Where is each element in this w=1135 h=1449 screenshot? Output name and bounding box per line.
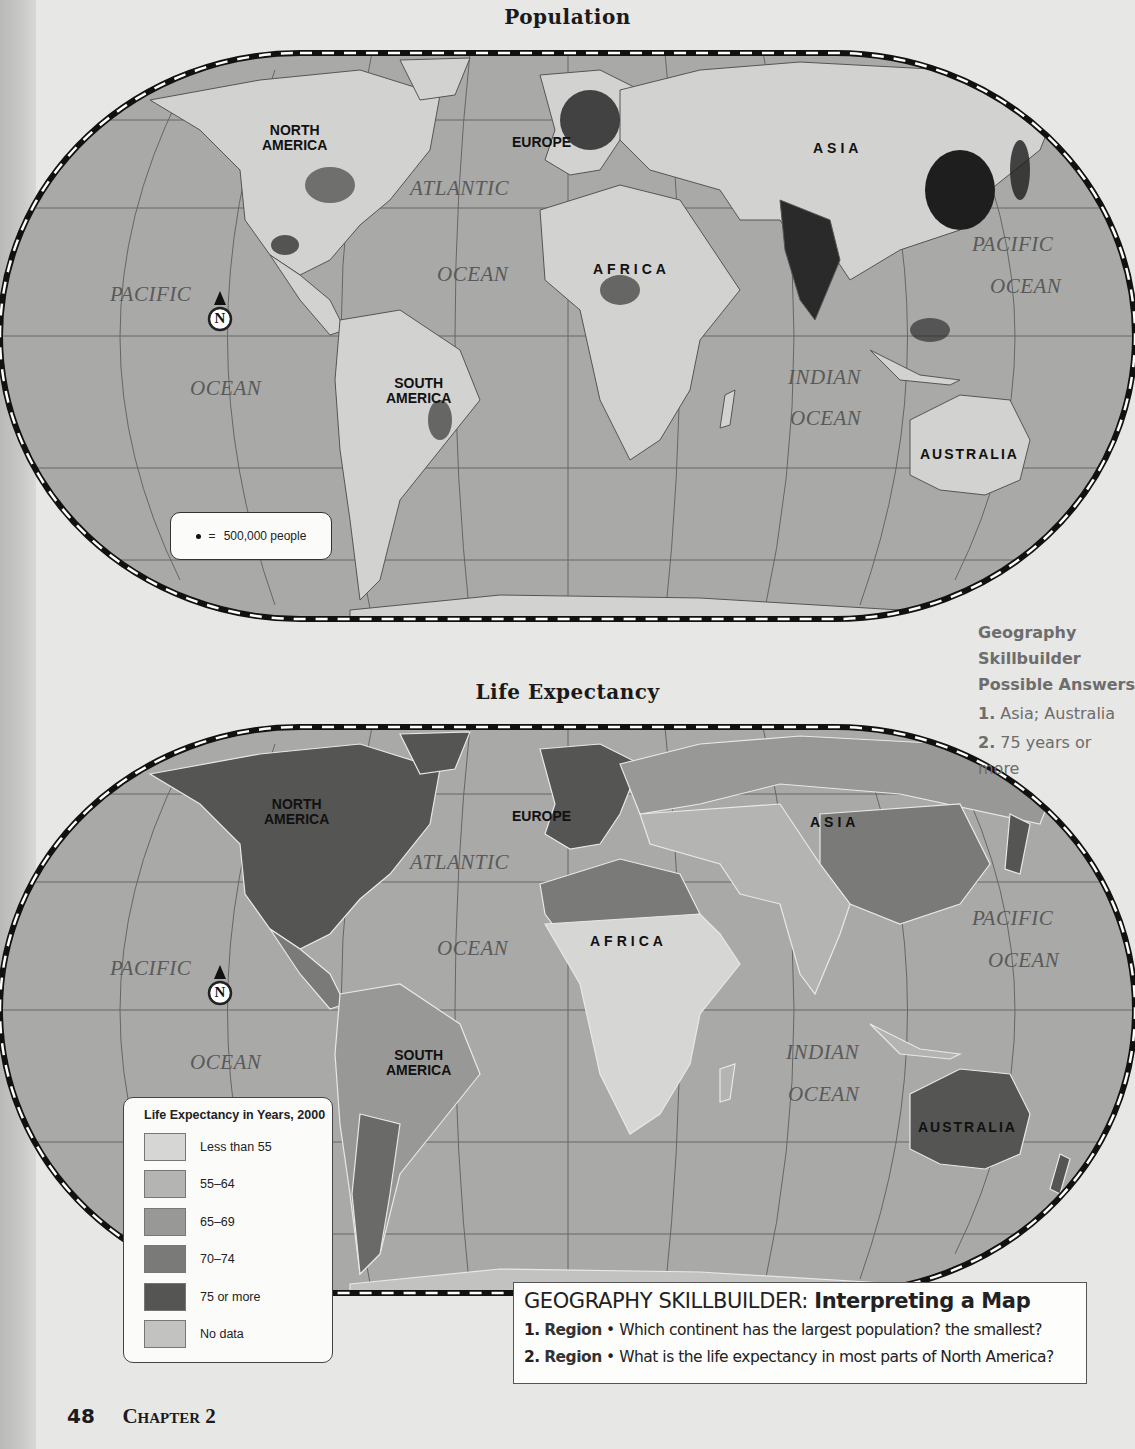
- population-key-text: 500,000 people: [224, 529, 307, 543]
- label-pacific-ocean-west-1: PACIFIC: [110, 282, 191, 307]
- label-pacific-ocean-west-1: PACIFIC: [110, 956, 191, 981]
- label-north-america: NORTH AMERICA: [264, 797, 329, 827]
- legend-label: Less than 55: [200, 1140, 272, 1154]
- answer-text: 75 years or more: [978, 733, 1091, 778]
- label-indian-ocean-1: INDIAN: [786, 1040, 859, 1065]
- label-atlantic-ocean-2: OCEAN: [437, 936, 508, 961]
- page-footer: 48 Chapter 2: [67, 1404, 216, 1429]
- side-note-answer: 1. Asia; Australia: [978, 698, 1135, 730]
- legend-item: No data: [144, 1316, 332, 1354]
- label-indian-ocean-2: OCEAN: [788, 1082, 859, 1107]
- legend-swatch-55-64: [144, 1170, 186, 1198]
- legend-swatch-70-74: [144, 1245, 186, 1273]
- legend-label: 75 or more: [200, 1290, 260, 1304]
- population-key-equals: =: [209, 529, 216, 543]
- label-asia: ASIA: [813, 141, 862, 156]
- label-africa: AFRICA: [590, 934, 667, 949]
- population-map: NORTH AMERICA EUROPE ASIA AFRICA SOUTH A…: [0, 0, 1135, 640]
- legend-item: Less than 55: [144, 1128, 332, 1166]
- legend-item: 65–69: [144, 1203, 332, 1241]
- bullet-icon: •: [606, 1321, 615, 1339]
- side-note-heading: Skillbuilder: [978, 646, 1135, 672]
- geography-skillbuilder-box: GEOGRAPHY SKILLBUILDER: Interpreting a M…: [513, 1282, 1087, 1384]
- legend-title: Life Expectancy in Years, 2000: [144, 1108, 332, 1122]
- legend-swatch-less-than-55: [144, 1133, 186, 1161]
- label-north-america: NORTH AMERICA: [262, 123, 327, 153]
- side-note-answer: 2. 75 years or more: [978, 730, 1135, 782]
- label-pacific-ocean-east-2: OCEAN: [990, 274, 1061, 299]
- skillbuilder-subtitle: Interpreting a Map: [814, 1289, 1030, 1313]
- compass-n-label: N: [207, 984, 233, 1001]
- skillbuilder-title: GEOGRAPHY SKILLBUILDER: Interpreting a M…: [524, 1285, 1086, 1317]
- legend-label: 65–69: [200, 1215, 235, 1229]
- legend-label: 70–74: [200, 1252, 235, 1266]
- population-dot-icon: [196, 534, 201, 539]
- possible-answers-note: Geography Skillbuilder Possible Answers …: [978, 620, 1135, 782]
- label-south-america: SOUTH AMERICA: [386, 1048, 451, 1078]
- skillbuilder-question: 2. Region • What is the life expectancy …: [524, 1344, 1086, 1371]
- life-expectancy-legend: Life Expectancy in Years, 2000 Less than…: [123, 1097, 333, 1363]
- answer-text: Asia; Australia: [1000, 704, 1115, 723]
- question-category: Region: [544, 1321, 602, 1339]
- side-note-heading: Geography: [978, 620, 1135, 646]
- page-number: 48: [67, 1404, 95, 1428]
- question-number: 2.: [524, 1348, 540, 1366]
- north-arrow-icon: N: [207, 965, 233, 1009]
- label-australia: AUSTRALIA: [920, 447, 1019, 462]
- label-pacific-ocean-east-1: PACIFIC: [972, 906, 1053, 931]
- label-europe: EUROPE: [512, 135, 571, 150]
- question-text: Which continent has the largest populati…: [619, 1321, 1042, 1339]
- answer-number: 1.: [978, 704, 995, 723]
- question-category: Region: [544, 1348, 602, 1366]
- answer-number: 2.: [978, 733, 995, 752]
- chapter-label: Chapter 2: [122, 1404, 215, 1428]
- question-text: What is the life expectancy in most part…: [619, 1348, 1054, 1366]
- label-atlantic-ocean-2: OCEAN: [437, 262, 508, 287]
- label-africa: AFRICA: [593, 262, 670, 277]
- legend-swatch-75-or-more: [144, 1283, 186, 1311]
- compass-n-label: N: [207, 310, 233, 327]
- legend-label: 55–64: [200, 1177, 235, 1191]
- north-arrow-icon: N: [207, 291, 233, 335]
- skillbuilder-heading: GEOGRAPHY SKILLBUILDER:: [524, 1289, 808, 1313]
- label-pacific-ocean-west-2: OCEAN: [190, 376, 261, 401]
- label-europe: EUROPE: [512, 809, 571, 824]
- label-atlantic-ocean-1: ATLANTIC: [410, 176, 509, 201]
- bullet-icon: •: [606, 1348, 615, 1366]
- population-key: = 500,000 people: [170, 512, 332, 560]
- label-atlantic-ocean-1: ATLANTIC: [410, 850, 509, 875]
- legend-item: 70–74: [144, 1241, 332, 1279]
- label-indian-ocean-1: INDIAN: [788, 365, 861, 390]
- legend-swatch-no-data: [144, 1320, 186, 1348]
- label-pacific-ocean-west-2: OCEAN: [190, 1050, 261, 1075]
- question-number: 1.: [524, 1321, 540, 1339]
- skillbuilder-question: 1. Region • Which continent has the larg…: [524, 1317, 1086, 1344]
- legend-item: 75 or more: [144, 1278, 332, 1316]
- label-indian-ocean-2: OCEAN: [790, 406, 861, 431]
- legend-label: No data: [200, 1327, 244, 1341]
- label-asia: ASIA: [810, 815, 859, 830]
- side-note-heading: Possible Answers: [978, 672, 1135, 698]
- label-australia: AUSTRALIA: [918, 1120, 1017, 1135]
- label-pacific-ocean-east-2: OCEAN: [988, 948, 1059, 973]
- legend-swatch-65-69: [144, 1208, 186, 1236]
- legend-item: 55–64: [144, 1166, 332, 1204]
- label-pacific-ocean-east-1: PACIFIC: [972, 232, 1053, 257]
- label-south-america: SOUTH AMERICA: [386, 376, 451, 406]
